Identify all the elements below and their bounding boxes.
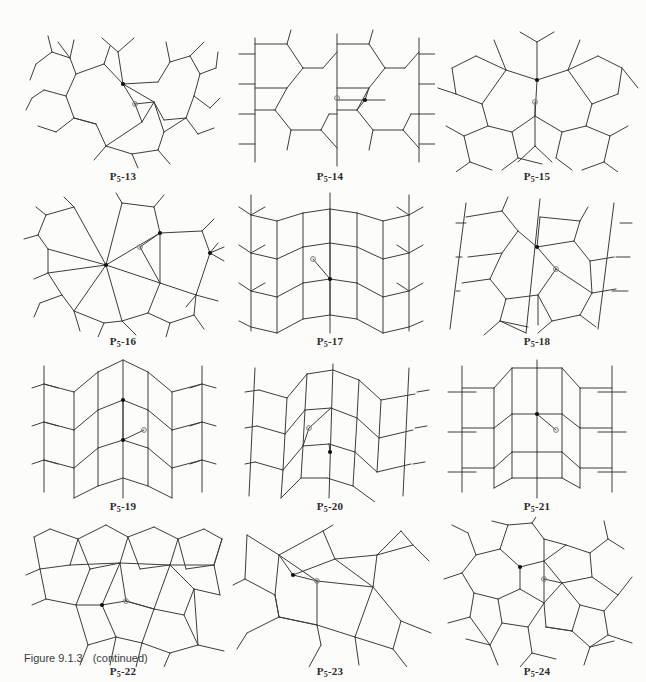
tiling-label-p5-13: P5-13 <box>18 170 228 184</box>
figure-number: Figure 9.1.3 <box>24 652 83 664</box>
tiling-label-p5-14: P5-14 <box>225 170 435 184</box>
filled-vertex-marker <box>535 78 539 82</box>
tiling-edges <box>245 364 429 502</box>
filled-vertex-marker <box>121 82 125 86</box>
tiling-label-number: -22 <box>121 665 136 677</box>
tiling-label-p5-19: P5-19 <box>18 500 228 514</box>
filled-vertex-marker <box>363 98 367 102</box>
tiling-label-prefix: P <box>110 665 117 677</box>
tiling-diagram-p5-23 <box>225 517 435 667</box>
tiling-cell-p5-23: P5-23 <box>225 517 435 682</box>
tiling-diagram-p5-15 <box>432 22 642 172</box>
tiling-cell-p5-15: P5-15 <box>432 22 642 187</box>
tiling-diagram-p5-22 <box>18 517 228 667</box>
tiling-diagram-p5-17 <box>225 187 435 337</box>
tiling-diagram-p5-16 <box>18 187 228 337</box>
tiling-label-prefix: P <box>524 335 531 347</box>
tiling-label-prefix: P <box>317 500 324 512</box>
filled-vertex-marker <box>518 565 522 569</box>
tiling-label-p5-21: P5-21 <box>432 500 642 514</box>
tiling-label-p5-20: P5-20 <box>225 500 435 514</box>
tiling-label-number: -15 <box>535 170 550 182</box>
tiling-edges <box>450 197 632 335</box>
tiling-label-p5-17: P5-17 <box>225 335 435 349</box>
tiling-diagram-p5-18 <box>432 187 642 337</box>
tiling-cell-p5-19: P5-19 <box>18 352 228 517</box>
tiling-label-prefix: P <box>524 170 531 182</box>
tiling-cell-p5-18: P5-18 <box>432 187 642 352</box>
tiling-label-p5-18: P5-18 <box>432 335 642 349</box>
tiling-cell-p5-24: P5-24 <box>432 517 642 682</box>
tiling-label-prefix: P <box>317 665 324 677</box>
tiling-label-p5-23: P5-23 <box>225 665 435 679</box>
tiling-edges <box>32 360 216 498</box>
tiling-label-p5-24: P5-24 <box>432 665 642 679</box>
tiling-edges <box>444 517 632 667</box>
tiling-cell-p5-13: P5-13 <box>18 22 228 187</box>
tiling-grid: P5-13P5-14P5-15P5-16P5-17P5-18P5-19P5-20… <box>0 0 646 682</box>
filled-vertex-marker <box>535 245 539 249</box>
tiling-label-number: -18 <box>535 335 550 347</box>
tiling-label-number: -20 <box>328 500 343 512</box>
tiling-label-number: -24 <box>535 665 550 677</box>
tiling-label-prefix: P <box>524 500 531 512</box>
tiling-cell-p5-16: P5-16 <box>18 187 228 352</box>
tiling-edges <box>438 32 638 172</box>
filled-vertex-marker <box>158 231 162 235</box>
tiling-diagram-p5-13 <box>18 22 228 172</box>
filled-vertex-marker <box>328 277 332 281</box>
filled-vertex-marker <box>291 573 295 577</box>
tiling-label-number: -16 <box>121 335 136 347</box>
tiling-edges <box>24 193 224 337</box>
tiling-cell-p5-21: P5-21 <box>432 352 642 517</box>
filled-vertex-marker <box>121 398 125 402</box>
tiling-label-number: -21 <box>535 500 550 512</box>
tiling-label-p5-15: P5-15 <box>432 170 642 184</box>
figure-caption: Figure 9.1.3(continued) <box>24 652 148 664</box>
filled-vertex-marker <box>121 438 125 442</box>
tiling-label-number: -14 <box>328 170 343 182</box>
tiling-diagram-p5-14 <box>225 22 435 172</box>
filled-vertex-marker <box>535 412 539 416</box>
tiling-label-prefix: P <box>317 335 324 347</box>
tiling-label-prefix: P <box>110 170 117 182</box>
filled-vertex-marker <box>104 263 108 267</box>
tiling-edges <box>448 360 626 498</box>
tiling-edges <box>233 525 431 667</box>
tiling-edges <box>239 30 435 166</box>
figure-continued-note: (continued) <box>93 652 148 664</box>
tiling-diagram-p5-20 <box>225 352 435 502</box>
tiling-diagram-p5-24 <box>432 517 642 667</box>
tiling-label-p5-22: P5-22 <box>18 665 228 679</box>
filled-vertex-marker <box>328 450 332 454</box>
tiling-edges <box>239 193 423 333</box>
tiling-cell-p5-14: P5-14 <box>225 22 435 187</box>
tiling-label-number: -13 <box>121 170 136 182</box>
tiling-label-prefix: P <box>110 500 117 512</box>
tiling-diagram-p5-21 <box>432 352 642 502</box>
tiling-label-number: -19 <box>121 500 136 512</box>
tiling-label-prefix: P <box>110 335 117 347</box>
tiling-cell-p5-20: P5-20 <box>225 352 435 517</box>
tiling-edges <box>26 525 224 667</box>
filled-vertex-marker <box>208 251 212 255</box>
tiling-label-number: -23 <box>328 665 343 677</box>
tiling-label-prefix: P <box>317 170 324 182</box>
tiling-label-prefix: P <box>524 665 531 677</box>
tiling-label-p5-16: P5-16 <box>18 335 228 349</box>
tiling-edges <box>26 36 220 168</box>
tiling-cell-p5-17: P5-17 <box>225 187 435 352</box>
filled-vertex-marker <box>100 603 104 607</box>
tiling-diagram-p5-19 <box>18 352 228 502</box>
scanned-page: P5-13P5-14P5-15P5-16P5-17P5-18P5-19P5-20… <box>0 0 646 682</box>
tiling-label-number: -17 <box>328 335 343 347</box>
